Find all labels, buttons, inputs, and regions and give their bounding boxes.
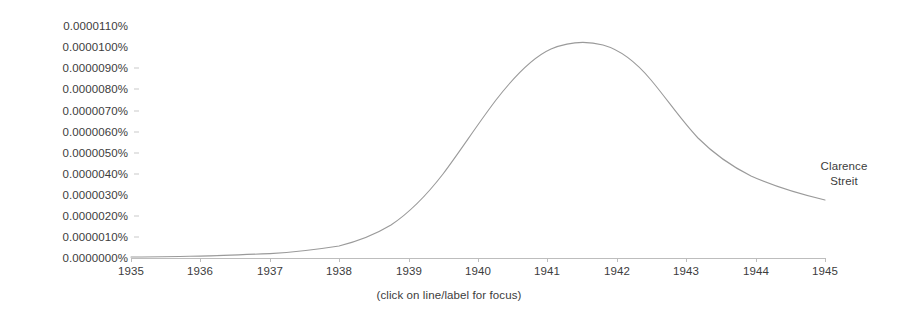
y-axis: 0.0000110% 0.0000100% 0.0000090% 0.00000… — [0, 0, 142, 316]
x-tick-label: 1942 — [604, 265, 630, 278]
series-line-clarence-streit[interactable] — [131, 20, 825, 258]
y-tick-label: 0.0000070% — [62, 105, 128, 117]
series-label-clarence-streit[interactable]: Clarence Streit — [799, 159, 889, 189]
x-tick-mark — [686, 258, 687, 262]
x-axis-line — [131, 258, 825, 259]
plot-area — [131, 20, 825, 258]
x-tick-mark — [825, 258, 826, 262]
y-tick-label: 0.0000000% — [62, 252, 128, 264]
x-tick-mark — [478, 258, 479, 262]
x-tick-mark — [200, 258, 201, 262]
x-tick-label: 1941 — [534, 265, 560, 278]
x-tick-mark — [547, 258, 548, 262]
x-tick-label: 1944 — [743, 265, 769, 278]
y-tick-label: 0.0000060% — [62, 126, 128, 138]
focus-hint-text: (click on line/label for focus) — [0, 289, 898, 302]
x-tick-label: 1945 — [812, 265, 838, 278]
x-tick-mark — [270, 258, 271, 262]
series-label-line1: Clarence — [799, 159, 889, 174]
series-label-line2: Streit — [799, 174, 889, 189]
y-tick-label: 0.0000020% — [62, 210, 128, 222]
x-tick-mark — [409, 258, 410, 262]
x-tick-mark — [617, 258, 618, 262]
y-tick-label: 0.0000100% — [62, 41, 128, 53]
y-tick-label: 0.0000010% — [62, 231, 128, 243]
y-tick-label: 0.0000080% — [62, 83, 128, 95]
x-tick-label: 1939 — [396, 265, 422, 278]
y-tick-label: 0.0000030% — [62, 189, 128, 201]
x-tick-label: 1936 — [187, 265, 213, 278]
x-tick-mark — [756, 258, 757, 262]
y-tick-label: 0.0000050% — [62, 147, 128, 159]
x-tick-label: 1943 — [673, 265, 699, 278]
y-tick-label: 0.0000090% — [62, 62, 128, 74]
x-tick-label: 1938 — [326, 265, 352, 278]
x-tick-mark — [339, 258, 340, 262]
ngram-viewer-chart: 0.0000110% 0.0000100% 0.0000090% 0.00000… — [0, 0, 898, 316]
y-tick-label: 0.0000110% — [63, 20, 128, 32]
y-tick-label: 0.0000040% — [62, 168, 128, 180]
x-tick-label: 1937 — [257, 265, 283, 278]
x-tick-label: 1940 — [465, 265, 491, 278]
